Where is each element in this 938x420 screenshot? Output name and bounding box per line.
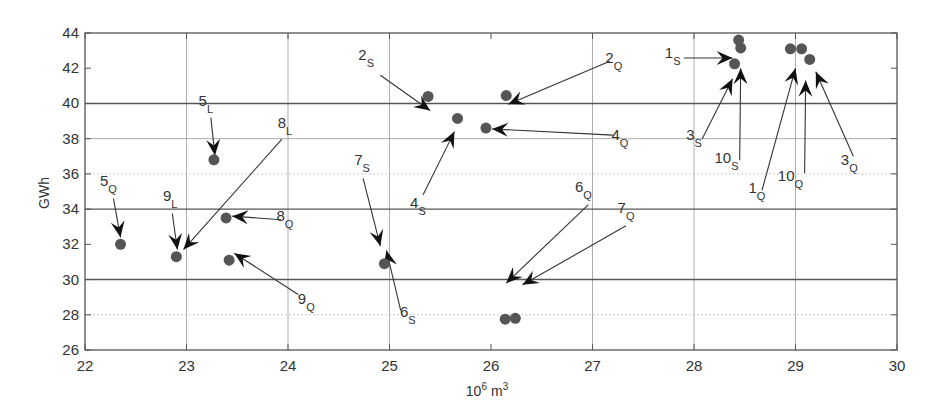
y-tick-label: 26 bbox=[62, 341, 79, 358]
annotation-subscript: S bbox=[363, 162, 370, 174]
x-axis-title-unit-exp: 3 bbox=[503, 381, 509, 392]
annotation-number: 1 bbox=[748, 179, 756, 196]
annotation-label: 6Q bbox=[575, 178, 592, 201]
annotation-number: 1 bbox=[665, 44, 673, 61]
annotation-subscript: Q bbox=[626, 210, 635, 222]
x-tick-label: 26 bbox=[483, 357, 500, 374]
arrow-shaft bbox=[805, 81, 806, 174]
annotation-label: 10Q bbox=[778, 167, 804, 190]
data-point bbox=[379, 258, 390, 269]
annotation-subscript: S bbox=[367, 57, 374, 69]
y-tick-label: 44 bbox=[62, 24, 79, 41]
arrow-shaft bbox=[702, 79, 732, 139]
annotation-label: 4Q bbox=[611, 126, 628, 149]
arrow-shaft bbox=[740, 68, 741, 160]
plot-frame bbox=[85, 33, 897, 350]
annotation-subscript: Q bbox=[108, 183, 117, 195]
data-point bbox=[785, 43, 796, 54]
annotation-number: 8 bbox=[278, 114, 286, 131]
x-tick-label: 28 bbox=[686, 357, 703, 374]
arrow-shaft bbox=[234, 253, 298, 294]
data-point bbox=[224, 255, 235, 266]
y-axis-title: GWh bbox=[36, 177, 52, 209]
y-tick-label: 30 bbox=[62, 271, 79, 288]
grid-lines bbox=[85, 33, 897, 350]
data-point bbox=[729, 58, 740, 69]
annotation-number: 10 bbox=[714, 149, 731, 166]
annotation-number: 8 bbox=[277, 207, 285, 224]
x-axis-title: 106m3 bbox=[466, 381, 509, 399]
arrowhead-icon bbox=[522, 271, 539, 285]
annotation-label: 5Q bbox=[100, 172, 117, 195]
annotation-label: 7Q bbox=[618, 199, 635, 222]
arrowhead-icon bbox=[234, 253, 251, 268]
x-tick-label: 25 bbox=[381, 357, 398, 374]
annotation-number: 3 bbox=[841, 151, 849, 168]
data-point bbox=[171, 251, 182, 262]
annotation-label: 6S bbox=[400, 303, 416, 326]
annotation-subscript: Q bbox=[620, 137, 629, 149]
y-tick-label: 32 bbox=[62, 235, 79, 252]
annotation-subscript: Q bbox=[849, 162, 858, 174]
scatter-chart: 222324252627282930 26283032343638404244 … bbox=[0, 0, 938, 420]
data-point bbox=[501, 90, 512, 101]
arrow-shaft bbox=[506, 205, 588, 283]
data-point bbox=[480, 123, 491, 134]
annotation-number: 4 bbox=[611, 126, 619, 143]
data-point bbox=[735, 42, 746, 53]
arrowhead-icon bbox=[441, 132, 454, 149]
annotation-number: 9 bbox=[163, 187, 171, 204]
y-tick-label: 40 bbox=[62, 94, 79, 111]
x-axis-title-base: 10 bbox=[466, 383, 482, 399]
data-point bbox=[804, 54, 815, 65]
annotation-subscript: Q bbox=[583, 189, 592, 201]
annotation-number: 7 bbox=[354, 151, 362, 168]
annotation-subscript: L bbox=[171, 198, 177, 210]
arrow-shaft bbox=[522, 226, 626, 285]
annotation-label: 5L bbox=[199, 92, 213, 115]
annotation-label: 2Q bbox=[605, 49, 622, 72]
annotation-number: 6 bbox=[575, 178, 583, 195]
annotation-number: 7 bbox=[618, 199, 626, 216]
y-tick-label: 36 bbox=[62, 165, 79, 182]
y-tick-label: 38 bbox=[62, 130, 79, 147]
x-tick-label: 29 bbox=[787, 357, 804, 374]
y-tick-label: 42 bbox=[62, 59, 79, 76]
annotation-label: 3S bbox=[686, 126, 702, 149]
data-points bbox=[115, 35, 815, 325]
y-tick-label: 28 bbox=[62, 306, 79, 323]
data-point bbox=[500, 314, 511, 325]
annotation-label: 8L bbox=[278, 114, 292, 137]
annotation-label: 9Q bbox=[298, 290, 315, 313]
annotation-label: 2S bbox=[358, 46, 374, 69]
data-point bbox=[221, 212, 232, 223]
data-point bbox=[208, 154, 219, 165]
axis-ticks bbox=[85, 33, 897, 350]
annotation-number: 2 bbox=[605, 49, 613, 66]
x-axis-title-unit: m bbox=[491, 383, 503, 399]
y-tick-label: 34 bbox=[62, 200, 79, 217]
annotation-subscript: S bbox=[408, 314, 415, 326]
arrowhead-icon bbox=[719, 79, 732, 96]
annotation-label: 9L bbox=[163, 187, 177, 210]
annotation-number: 9 bbox=[298, 290, 306, 307]
annotation-label: 1Q bbox=[748, 179, 765, 202]
annotation-subscript: S bbox=[418, 205, 425, 217]
annotation-subscript: S bbox=[695, 137, 702, 149]
annotation-number: 10 bbox=[778, 167, 795, 184]
annotation-label: 1S bbox=[665, 44, 681, 67]
arrow-shaft bbox=[816, 72, 854, 157]
annotation-subscript: Q bbox=[757, 190, 766, 202]
data-point bbox=[423, 91, 434, 102]
data-point bbox=[452, 113, 463, 124]
annotation-subscript: Q bbox=[614, 60, 623, 72]
arrow-shaft bbox=[492, 129, 613, 135]
x-tick-label: 22 bbox=[77, 357, 94, 374]
arrow-shaft bbox=[423, 132, 454, 195]
annotation-label: 7S bbox=[354, 151, 370, 174]
annotation-number: 3 bbox=[686, 126, 694, 143]
annotation-label: 4S bbox=[410, 194, 426, 217]
x-tick-label: 23 bbox=[178, 357, 195, 374]
annotation-number: 5 bbox=[100, 172, 108, 189]
annotation-number: 2 bbox=[358, 46, 366, 63]
